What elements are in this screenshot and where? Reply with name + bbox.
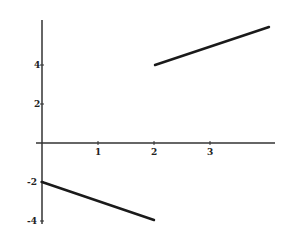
piecewise-line-chart: 1 2 3 4 2 -2 -4: [0, 0, 298, 248]
x-tick-label-2: 2: [151, 147, 157, 157]
upper-segment-line: [155, 27, 269, 65]
y-tick-label-neg4: -4: [27, 216, 37, 226]
y-tick-label-2: 2: [34, 99, 40, 109]
lower-segment-line: [42, 182, 154, 220]
x-tick-label-3: 3: [207, 147, 213, 157]
x-tick-label-1: 1: [95, 147, 101, 157]
y-tick-label-4: 4: [34, 60, 40, 70]
y-tick-label-neg2: -2: [27, 177, 37, 187]
